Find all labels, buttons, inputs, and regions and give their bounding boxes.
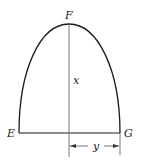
arrowhead-right-icon <box>113 144 119 148</box>
label-e: E <box>6 127 15 140</box>
parabolic-curve <box>19 24 120 133</box>
parabola-diagram: F x E G y <box>0 0 142 165</box>
arrowhead-left-icon <box>70 144 76 148</box>
label-y: y <box>92 140 100 153</box>
label-x: x <box>73 74 80 87</box>
label-f: F <box>64 9 73 22</box>
label-g: G <box>124 127 133 140</box>
